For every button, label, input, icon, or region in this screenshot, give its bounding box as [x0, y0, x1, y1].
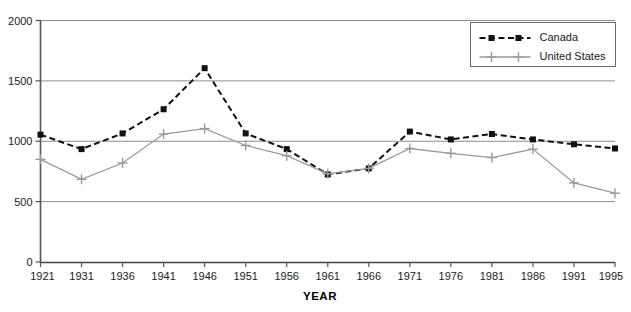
x-tick-label: 1941 [151, 270, 175, 282]
x-tick-label: 1961 [316, 270, 340, 282]
x-tick-label: 1966 [357, 270, 381, 282]
x-tick-label: 1936 [110, 270, 134, 282]
data-point [38, 132, 44, 138]
y-tick-label: 1500 [8, 75, 32, 87]
legend-marker [516, 35, 522, 41]
y-tick-label: 500 [14, 196, 32, 208]
data-point [161, 106, 167, 112]
x-tick-label: 1986 [521, 270, 545, 282]
y-tick-label: 1000 [8, 135, 32, 147]
data-point [120, 130, 126, 136]
y-tick-label: 2000 [8, 15, 32, 27]
x-tick-label: 1971 [398, 270, 422, 282]
y-tick-label: 0 [26, 256, 32, 268]
data-point [530, 136, 536, 142]
x-tick-label: 1946 [192, 270, 216, 282]
legend-label-united-states: United States [540, 50, 607, 62]
x-axis-tick-labels: 1921193119361941194619511956196119661971… [30, 270, 623, 282]
legend-label-canada: Canada [540, 31, 579, 43]
x-axis-title: YEAR [303, 290, 337, 302]
x-tick-label: 1956 [274, 270, 298, 282]
data-point [571, 141, 577, 147]
data-point [202, 65, 208, 71]
legend-marker [489, 35, 495, 41]
x-tick-label: 1921 [30, 270, 54, 282]
data-point [612, 145, 618, 151]
data-point [489, 131, 495, 137]
x-tick-label: 1951 [233, 270, 257, 282]
chart-legend: CanadaUnited States [471, 23, 616, 67]
x-tick-label: 1981 [480, 270, 504, 282]
x-tick-label: 1995 [599, 270, 623, 282]
data-point [407, 129, 413, 135]
line-chart: 0500100015002000 19211931193619411946195… [0, 0, 631, 312]
x-tick-label: 1931 [69, 270, 93, 282]
data-point [79, 146, 85, 152]
x-tick-label: 1991 [562, 270, 586, 282]
x-tick-label: 1976 [439, 270, 463, 282]
data-point [448, 136, 454, 142]
chart-container: 0500100015002000 19211931193619411946195… [0, 0, 631, 312]
data-point [243, 130, 249, 136]
